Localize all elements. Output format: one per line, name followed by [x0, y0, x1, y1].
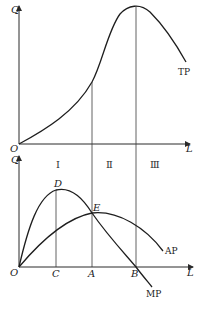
- top-origin-label: O: [10, 143, 18, 154]
- top-panel: Q O L TP: [10, 4, 193, 154]
- tp-label: TP: [178, 67, 190, 77]
- stage-3-label: Ⅲ: [150, 159, 160, 170]
- mp-label: MP: [146, 289, 161, 299]
- ap-label: AP: [164, 246, 178, 256]
- tick-c-label: C: [52, 268, 60, 279]
- ap-curve: [19, 213, 163, 267]
- point-d-label: D: [53, 178, 62, 189]
- point-e-label: E: [92, 202, 101, 213]
- bottom-y-label: Q: [11, 154, 19, 165]
- production-stages-diagram: Q O L TP Q O L Ⅰ Ⅱ Ⅲ D E C A B AP MP: [0, 0, 200, 311]
- bottom-origin-label: O: [10, 267, 18, 278]
- bottom-panel: Q O L Ⅰ Ⅱ Ⅲ D E C A B AP MP: [10, 154, 194, 299]
- tick-b-label: B: [130, 268, 138, 279]
- stage-2-label: Ⅱ: [106, 159, 113, 170]
- tick-a-label: A: [87, 268, 95, 279]
- stage-1-label: Ⅰ: [56, 159, 60, 170]
- tp-curve: [19, 6, 186, 144]
- bottom-x-label: L: [186, 267, 194, 278]
- top-x-label: L: [185, 143, 193, 154]
- top-y-label: Q: [11, 4, 19, 15]
